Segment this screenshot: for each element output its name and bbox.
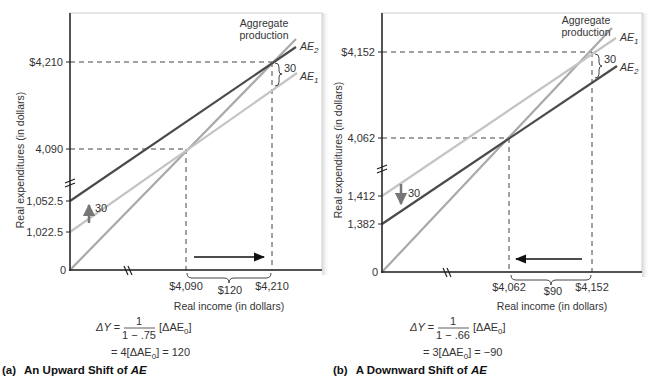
- x-axis-label-a: Real income (in dollars): [174, 300, 284, 312]
- aggregate-production-label-b: Aggregate: [562, 14, 611, 26]
- ae-label-text: AE: [299, 40, 315, 52]
- caption-a: (a)An Upward Shift of AE: [2, 364, 147, 376]
- equation-lhs: ΔY =: [95, 321, 121, 333]
- eq-text: ]: [189, 321, 192, 333]
- y-tick-label: 1,382: [347, 218, 375, 230]
- ae-label-sub: 1: [314, 76, 318, 85]
- ae-shift-diagram: $4,210 4,090 1,052.5 1,022.5 0 Real expe…: [0, 0, 656, 387]
- y-tick-label: 0: [60, 264, 66, 276]
- x-tick-label: $4,152: [575, 281, 609, 293]
- shift-label-a: 30: [95, 202, 107, 214]
- eq-text: ] = 120: [156, 346, 190, 358]
- eq-text: ]: [503, 321, 506, 333]
- equation-bracket: [ΔAE0]: [473, 321, 506, 336]
- equation-bracket: [ΔAE0]: [159, 321, 192, 336]
- ae-label-sub: 2: [313, 46, 319, 55]
- panel-a-shadow: [322, 13, 330, 275]
- eq-text: = 3[ΔAE: [423, 346, 464, 358]
- panel-b: $4,152 4,062 1,412 1,382 0 Real expendit…: [332, 13, 650, 376]
- equation-b: ΔY = 1 1 − .66 [ΔAE0] = 3[ΔAE0] = −90: [409, 315, 506, 361]
- y-axis-label-a: Real expenditures (in dollars): [14, 92, 26, 229]
- y-tick-label: $4,210: [29, 56, 63, 68]
- ae-label-sub: 1: [634, 37, 638, 46]
- caption-italic: AE: [130, 364, 147, 376]
- panel-b-shadow: [642, 13, 650, 277]
- ae-label-text: AE: [619, 31, 635, 43]
- x-tick-label: $4,090: [169, 280, 203, 292]
- gap-label-b: 30: [604, 53, 616, 65]
- ae-label-text: AE: [619, 61, 635, 73]
- aggregate-production-label-b-2: production: [561, 26, 610, 38]
- y-tick-label: 4,062: [347, 132, 375, 144]
- ae-label-text: AE: [299, 70, 315, 82]
- y-tick-label: 1,052.5: [26, 195, 63, 207]
- x-gap-label-a: $120: [218, 284, 242, 296]
- equation-lhs: ΔY =: [409, 321, 435, 333]
- x-gap-label-b: $90: [544, 285, 562, 297]
- x-tick-label: $4,062: [492, 281, 526, 293]
- y-tick-label: $4,152: [341, 46, 375, 58]
- x-tick-label: $4,210: [255, 280, 289, 292]
- x-axis-label-b: Real income (in dollars): [497, 300, 607, 312]
- shift-label-b: 30: [408, 187, 420, 199]
- eq-text: ] = −90: [468, 346, 502, 358]
- equation-numerator: 1: [450, 315, 456, 327]
- eq-text: = 4[ΔAE: [111, 346, 152, 358]
- eq-text: [ΔAE: [159, 321, 184, 333]
- panel-a: $4,210 4,090 1,052.5 1,022.5 0 Real expe…: [2, 13, 330, 376]
- caption-prefix: (b): [333, 364, 348, 376]
- caption-text: An Upward Shift of: [24, 364, 131, 376]
- y-tick-label: 1,022.5: [26, 226, 63, 238]
- caption-prefix: (a): [2, 364, 16, 376]
- gap-label-a: 30: [284, 62, 296, 74]
- equation-a: ΔY = 1 1 − .75 [ΔAE0] = 4[ΔAE0] = 120: [95, 315, 192, 361]
- equation-denominator: 1 − .75: [122, 329, 156, 341]
- equation-denominator: 1 − .66: [436, 329, 470, 341]
- eq-text: [ΔAE: [473, 321, 498, 333]
- aggregate-production-label-a-2: production: [239, 29, 288, 41]
- equation-line2: = 3[ΔAE0] = −90: [423, 346, 502, 361]
- equation-numerator: 1: [136, 315, 142, 327]
- caption-text: A Downward Shift of: [356, 364, 471, 376]
- caption-b: (b)A Downward Shift of AE: [333, 364, 487, 376]
- caption-italic: AE: [470, 364, 487, 376]
- aggregate-production-label-a: Aggregate: [240, 17, 289, 29]
- y-tick-label: 4,090: [35, 143, 63, 155]
- ae-label-sub: 2: [633, 67, 639, 76]
- y-tick-label: 1,412: [347, 190, 375, 202]
- equation-line2: = 4[ΔAE0] = 120: [111, 346, 190, 361]
- y-axis-label-b: Real expenditures (in dollars): [332, 82, 344, 219]
- y-tick-label: 0: [372, 266, 378, 278]
